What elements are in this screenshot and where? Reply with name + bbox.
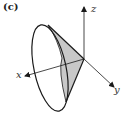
y-axis [84,59,114,87]
z-axis-label: z [91,3,96,14]
panel-label: (c) [3,1,19,12]
cone-drawing [0,0,125,116]
x-axis-label: x [16,69,22,80]
y-axis-label: y [114,84,120,95]
cone-diagram: (c) z x y [0,0,125,116]
